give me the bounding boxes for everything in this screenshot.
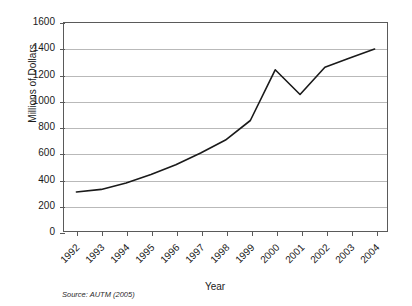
- x-tick-mark: [302, 231, 303, 236]
- y-tick-label: 800: [19, 122, 55, 132]
- x-tick-mark: [277, 231, 278, 236]
- x-tick-label: 2004: [351, 242, 381, 272]
- y-tick-label: 1600: [19, 17, 55, 27]
- source-note: Source: AUTM (2005): [62, 290, 135, 299]
- x-tick-mark: [377, 231, 378, 236]
- y-tick-label: 200: [19, 201, 55, 211]
- x-tick-label: 2003: [326, 242, 356, 272]
- y-tick-label: 0: [19, 227, 55, 237]
- y-tick-label: 400: [19, 175, 55, 185]
- x-tick-mark: [352, 231, 353, 236]
- x-axis-title-text: Year: [187, 281, 225, 292]
- x-tick-label: 2000: [251, 242, 281, 272]
- y-tick-mark: [60, 233, 65, 234]
- x-tick-mark: [327, 231, 328, 236]
- y-tick-label: 1000: [19, 96, 55, 106]
- x-tick-label: 1992: [51, 242, 81, 272]
- x-tick-mark: [77, 231, 78, 236]
- data-series-line: [64, 23, 387, 231]
- x-tick-label: 1996: [151, 242, 181, 272]
- x-tick-label: 1994: [101, 242, 131, 272]
- x-tick-label: 1998: [201, 242, 231, 272]
- y-tick-label: 1400: [19, 43, 55, 53]
- x-tick-label: 1995: [126, 242, 156, 272]
- x-tick-label: 1993: [76, 242, 106, 272]
- x-tick-mark: [102, 231, 103, 236]
- x-tick-mark: [152, 231, 153, 236]
- chart-container: Millions of Dollars 02004006008001000120…: [0, 0, 412, 306]
- x-tick-mark: [252, 231, 253, 236]
- x-tick-mark: [127, 231, 128, 236]
- x-tick-label: 1999: [226, 242, 256, 272]
- y-tick-label: 600: [19, 148, 55, 158]
- plot-area: [63, 22, 388, 232]
- x-tick-mark: [177, 231, 178, 236]
- x-tick-label: 1997: [176, 242, 206, 272]
- x-tick-mark: [227, 231, 228, 236]
- y-tick-label: 1200: [19, 70, 55, 80]
- x-tick-label: 2002: [301, 242, 331, 272]
- x-tick-label: 2001: [276, 242, 306, 272]
- x-tick-mark: [202, 231, 203, 236]
- y-axis-title: Millions of Dollars: [27, 4, 38, 164]
